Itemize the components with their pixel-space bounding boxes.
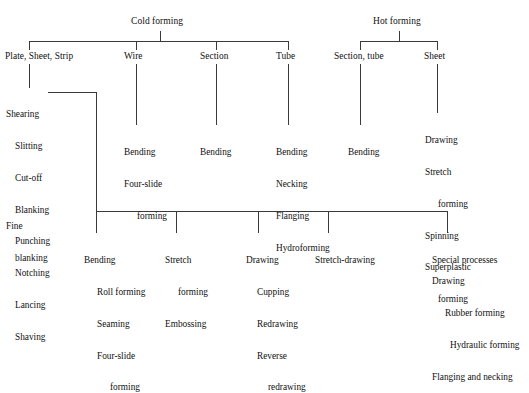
group-label: Drawing	[246, 255, 306, 266]
group-bending: Bending Roll forming Seaming Four-slide …	[84, 234, 145, 393]
node-plate-sheet-strip: Plate, Sheet, Strip	[5, 51, 73, 62]
list-item: Flanging	[276, 211, 330, 222]
list-item: forming	[165, 287, 208, 298]
group-drawing: Drawing Cupping Redrawing Reverse redraw…	[246, 234, 306, 393]
list-item: Hydraulic forming	[432, 340, 519, 351]
list-item: Bending	[276, 147, 330, 158]
list-item: Redrawing	[246, 319, 306, 330]
node-cold-forming: Cold forming	[131, 16, 183, 27]
node-sheet: Sheet	[424, 51, 445, 62]
list-item: Four-slide	[124, 179, 167, 190]
list-item: Drawing	[425, 135, 471, 146]
list-item: forming	[425, 199, 471, 210]
node-tube: Tube	[276, 51, 295, 62]
list-item: Necking	[276, 179, 330, 190]
group-label: Stretch-drawing	[315, 255, 375, 266]
list-item: Cupping	[246, 287, 306, 298]
list-hot-section-tube: Bending	[348, 126, 380, 179]
list-item: Embossing	[165, 319, 208, 330]
list-item: Cut-off	[6, 173, 50, 184]
list-item: Shaving	[6, 332, 50, 343]
list-item: redrawing	[246, 382, 306, 393]
node-hot-forming: Hot forming	[373, 16, 421, 27]
process-classification-diagram: Cold forming Hot forming Plate, Sheet, S…	[0, 0, 529, 393]
list-item: Bending	[124, 147, 167, 158]
node-section-tube: Section, tube	[334, 51, 384, 62]
list-item: blanking	[6, 253, 48, 264]
list-item: Rubber forming	[432, 308, 519, 319]
list-special-processes: Drawing Rubber forming Hydraulic forming…	[432, 255, 519, 393]
list-item: forming	[84, 382, 145, 393]
list-item: Roll forming	[84, 287, 145, 298]
group-stretch-drawing: Stretch-drawing	[315, 234, 375, 287]
list-item: Stretch	[425, 167, 471, 178]
list-item: Bending	[200, 147, 232, 158]
list-item: Drawing	[432, 276, 519, 287]
node-wire: Wire	[124, 51, 143, 62]
list-item: Four-slide	[84, 351, 145, 362]
group-label: Bending	[84, 255, 145, 266]
list-item: Reverse	[246, 351, 306, 362]
list-item: forming	[124, 211, 167, 222]
list-section: Bending	[200, 126, 232, 179]
list-item: Seaming	[84, 319, 145, 330]
list-wire: Bending Four-slide forming	[124, 126, 167, 243]
list-item: Shearing	[6, 109, 50, 120]
group-stretch-forming: Stretch forming Embossing	[165, 234, 208, 351]
list-item: Slitting	[6, 141, 50, 152]
list-item: Flanging and necking	[432, 372, 519, 383]
list-item: Bending	[348, 147, 380, 158]
list-item: Fine	[6, 221, 48, 232]
group-label: Stretch	[165, 255, 208, 266]
node-section: Section	[200, 51, 228, 62]
list-item: Lancing	[6, 300, 50, 311]
list-fine-blanking: Fine blanking	[6, 200, 48, 285]
